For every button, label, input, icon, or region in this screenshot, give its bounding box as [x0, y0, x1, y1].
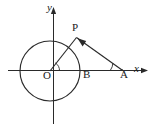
point-label-B: B	[83, 69, 90, 80]
geometry-canvas	[0, 0, 155, 128]
y-axis-label: y	[47, 2, 52, 13]
angle-arc-at-A	[111, 63, 113, 70]
geometry-figure: y x O P B A	[0, 0, 155, 128]
x-axis-arrowhead	[141, 68, 148, 73]
point-label-A: A	[120, 69, 128, 80]
point-label-P: P	[72, 22, 78, 33]
point-label-O: O	[43, 70, 51, 81]
x-axis-label: x	[134, 63, 139, 74]
tangent-direction-arrowhead	[78, 38, 87, 46]
